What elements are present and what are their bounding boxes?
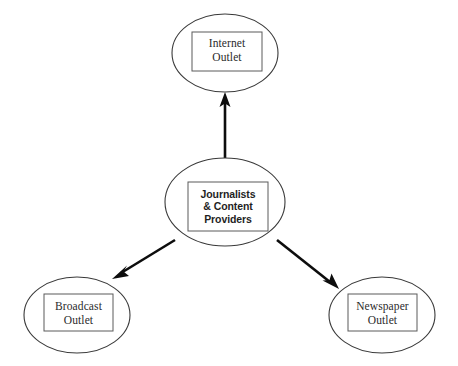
- node-journalists-content-providers[interactable]: [165, 158, 285, 246]
- node-journalists-content-providers-box: [188, 182, 268, 231]
- edge-to-newspaper-line: [277, 240, 330, 282]
- node-newspaper-outlet[interactable]: [329, 277, 435, 353]
- edge-to-newspaper-arrowhead: [323, 274, 340, 290]
- node-internet-outlet-box: [192, 32, 262, 71]
- edge-to-newspaper: [277, 240, 339, 289]
- diagram-canvas: Internet Outlet Journalists & Content Pr…: [0, 0, 458, 366]
- edge-to-broadcast-line: [121, 240, 175, 273]
- diagram-graphics: [0, 0, 458, 366]
- edge-to-internet: [220, 92, 231, 158]
- node-broadcast-outlet[interactable]: [24, 277, 130, 353]
- edge-to-broadcast-arrowhead: [112, 266, 129, 280]
- node-broadcast-outlet-box: [44, 294, 113, 331]
- node-internet-outlet[interactable]: [172, 14, 278, 92]
- edge-to-broadcast: [112, 240, 175, 279]
- node-newspaper-outlet-box: [348, 294, 417, 331]
